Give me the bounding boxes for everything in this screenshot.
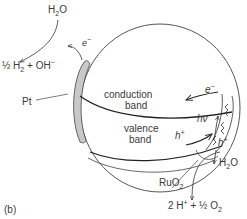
hole-flow-arrow xyxy=(186,134,212,145)
hole-transfer-arrow xyxy=(214,150,216,164)
conduction-band-line xyxy=(80,96,232,118)
panel-label: (b) xyxy=(4,204,16,215)
h2o-bottom-label: H2O xyxy=(219,157,238,168)
electron-right-label: e− xyxy=(205,84,215,95)
valence-band-line xyxy=(90,146,222,161)
pt-leader-line xyxy=(36,94,68,100)
ruo2-label: RuO2 xyxy=(159,177,183,188)
electron-top-label: e− xyxy=(82,38,91,49)
h2o-top-label: H2O xyxy=(48,4,67,15)
o2-product-label: 2 H+ + ½ O2 xyxy=(168,200,222,211)
electron-transfer-arrow xyxy=(68,46,82,60)
conduction-band-label: conduction band xyxy=(104,89,152,111)
photon-label: hν xyxy=(197,113,208,124)
h2-reduction-arrow xyxy=(20,20,58,62)
h2-product-label: ½ H2 + OH− xyxy=(2,60,55,71)
photon-wave-1 xyxy=(225,104,228,116)
hole-left-label: h+ xyxy=(175,130,185,141)
photon-wave-2 xyxy=(221,122,224,134)
hole-right-label: h+ xyxy=(218,137,228,148)
valence-band-label: valence band xyxy=(124,123,158,145)
pt-label: Pt xyxy=(22,96,31,107)
